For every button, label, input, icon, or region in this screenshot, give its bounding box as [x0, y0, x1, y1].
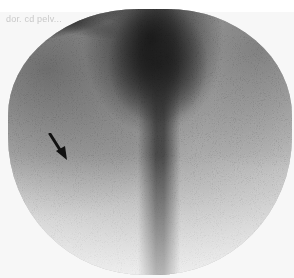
arrow-icon	[48, 133, 68, 161]
image-frame: dor. cd pelv...	[0, 0, 294, 278]
